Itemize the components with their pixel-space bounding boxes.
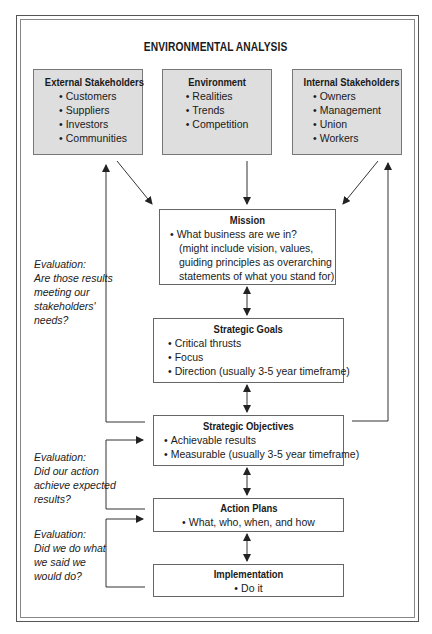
list-item: Do it <box>234 582 262 594</box>
box-title: Environment <box>188 75 246 89</box>
list-item: Direction (usually 3-5 year timeframe) <box>168 364 343 378</box>
box-strategic-goals: Strategic Goals Critical thrusts Focus D… <box>153 318 344 383</box>
box-title: Mission <box>230 213 265 227</box>
mission-line: statements of what you stand for) <box>170 269 335 283</box>
list-item: Achievable results <box>164 433 343 447</box>
evaluation-line: Evaluation: <box>34 450 116 464</box>
list-item: Measurable (usually 3-5 year timeframe) <box>164 447 343 461</box>
list-item: Trends <box>186 103 249 117</box>
box-title: Strategic Objectives <box>203 419 294 433</box>
arrow-internal-to-mission <box>343 161 378 204</box>
box-action-plans: Action Plans What, who, when, and how <box>153 498 344 532</box>
mission-line: What business are we in? <box>170 227 335 241</box>
box-title: Implementation <box>214 567 284 581</box>
box-title: Action Plans <box>220 501 277 515</box>
box-external-stakeholders: External Stakeholders Customers Supplier… <box>33 69 143 155</box>
box-title: Internal Stakeholders <box>304 75 400 89</box>
evaluation-line: results? <box>34 492 116 506</box>
diagram-title-text: ENVIRONMENTAL ANALYSIS <box>144 40 288 54</box>
arrow-external-to-mission <box>117 161 152 204</box>
list-item: Workers <box>313 131 381 145</box>
box-environment: Environment Realities Trends Competition <box>162 69 272 155</box>
evaluation-line: Are those results <box>34 271 113 285</box>
box-title: Strategic Goals <box>214 322 283 336</box>
box-mission: Mission What business are we in? (might … <box>159 209 336 285</box>
evaluation-note-implementation: Evaluation: Did we do what we said we wo… <box>34 527 106 583</box>
box-title: External Stakeholders <box>45 75 144 89</box>
box-implementation: Implementation Do it <box>153 564 344 597</box>
evaluation-line: needs? <box>34 313 113 327</box>
evaluation-line: Evaluation: <box>34 527 106 541</box>
diagram-title: ENVIRONMENTAL ANALYSIS <box>0 40 432 54</box>
list-item: Owners <box>313 89 381 103</box>
evaluation-line: stakeholders' <box>34 299 113 313</box>
evaluation-line: we said we <box>34 555 106 569</box>
evaluation-note-stakeholders: Evaluation: Are those results meeting ou… <box>34 257 113 327</box>
list-item: Union <box>313 117 381 131</box>
evaluation-line: meeting our <box>34 285 113 299</box>
box-internal-stakeholders: Internal Stakeholders Owners Management … <box>292 69 402 155</box>
list-item: Management <box>313 103 381 117</box>
box-strategic-objectives: Strategic Objectives Achievable results … <box>153 415 344 466</box>
mission-line: (might include vision, values, <box>170 241 335 255</box>
list-item: Communities <box>59 131 127 145</box>
list-item: Critical thrusts <box>168 336 343 350</box>
list-item: Customers <box>59 89 127 103</box>
evaluation-line: Did we do what <box>34 541 106 555</box>
evaluation-line: Did our action <box>34 464 116 478</box>
evaluation-line: would do? <box>34 569 106 583</box>
mission-line: guiding principles as overarching <box>170 255 335 269</box>
list-item: What, who, when, and how <box>182 516 315 528</box>
list-item: Suppliers <box>59 103 127 117</box>
evaluation-note-action: Evaluation: Did our action achieve expec… <box>34 450 116 506</box>
list-item: Realities <box>186 89 249 103</box>
list-item: Competition <box>186 117 249 131</box>
list-item: Investors <box>59 117 127 131</box>
evaluation-line: Evaluation: <box>34 257 113 271</box>
evaluation-line: achieve expected <box>34 478 116 492</box>
list-item: Focus <box>168 350 343 364</box>
